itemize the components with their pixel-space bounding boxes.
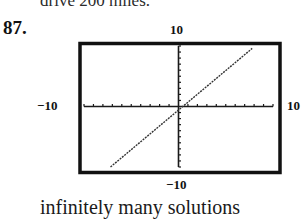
graphing-calculator-window [0,0,307,222]
series-line [111,48,253,167]
axes [84,46,273,167]
graph-line [111,48,253,167]
solution-caption: infinitely many solutions [40,196,240,219]
